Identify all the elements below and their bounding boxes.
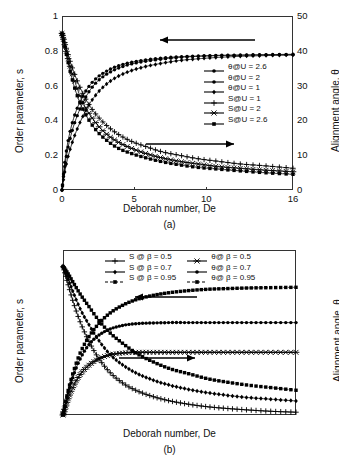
legend-item[interactable]: S@U = 2 [203, 104, 267, 115]
legend-marker-icon [203, 115, 225, 125]
legend-item[interactable]: S @ β = 0.5 [104, 252, 176, 263]
legend-column-s: S @ β = 0.5S @ β = 0.7S @ β = 0.95 [104, 252, 176, 284]
y-right-tick-label: 10 [297, 150, 308, 160]
figure-container: 05101600.20.40.60.8101020304050 Deborah … [0, 0, 339, 467]
y-left-tick-label: 0.8 [32, 46, 58, 56]
legend-item[interactable]: θ@ β = 0.5 [186, 252, 255, 263]
legend-item[interactable]: S @ β = 0.95 [104, 273, 176, 284]
caption-a: (a) [0, 219, 339, 230]
panel-b: 01234567891000.20.40.60.8101020304050 De… [0, 238, 339, 467]
legend-marker-icon [104, 273, 126, 283]
legend-column: θ@U = 2.6θ@U = 2θ@U = 1S@U = 1S@U = 2S@U… [203, 62, 267, 125]
legend-label: S @ β = 0.5 [129, 253, 172, 261]
legend-a: θ@U = 2.6θ@U = 2θ@U = 1S@U = 1S@U = 2S@U… [203, 62, 267, 125]
axis-title-y-right-b: Alignment angle, θ [332, 299, 339, 382]
axis-title-x-a: Deborah number, De [0, 203, 339, 214]
legend-marker-icon [104, 263, 126, 273]
legend-label: S@U = 2.6 [228, 116, 267, 124]
legend-item[interactable]: θ@U = 1 [203, 83, 267, 94]
axis-title-y-left-a: Order parameter, s [14, 69, 25, 153]
y-right-tick-label: 30 [297, 81, 308, 91]
y-right-tick-label: 50 [297, 11, 308, 21]
legend-label: θ@ β = 0.95 [211, 274, 255, 282]
legend-label: S @ β = 0.7 [129, 264, 172, 272]
legend-column-theta: θ@ β = 0.5θ@ β = 0.7θ@ β = 0.95 [186, 252, 255, 284]
y-left-tick-label: 1 [32, 11, 58, 21]
legend-columns: S @ β = 0.5S @ β = 0.7S @ β = 0.95θ@ β =… [104, 252, 255, 284]
axis-title-y-right-a: Alignment angle, θ [330, 69, 339, 152]
legend-b: S @ β = 0.5S @ β = 0.7S @ β = 0.95θ@ β =… [104, 252, 255, 284]
legend-label: S@U = 2 [228, 105, 261, 113]
legend-marker-icon [203, 94, 225, 104]
y-right-tick-label: 20 [297, 116, 308, 126]
legend-item[interactable]: S @ β = 0.7 [104, 263, 176, 274]
legend-marker-icon [104, 252, 126, 262]
y-left-tick-label: 0 [32, 185, 58, 195]
axis-title-x-b: Deborah number, De [0, 428, 339, 439]
y-left-tick-label: 0.6 [32, 81, 58, 91]
caption-b: (b) [0, 444, 339, 455]
y-left-tick-label: 0.2 [32, 150, 58, 160]
legend-marker-icon [203, 104, 225, 114]
legend-marker-icon [203, 73, 225, 83]
panel-a: 05101600.20.40.60.8101020304050 Deborah … [0, 0, 339, 238]
legend-marker-icon [203, 83, 225, 93]
legend-item[interactable]: S@U = 2.6 [203, 115, 267, 126]
x-tick-mark [134, 187, 135, 190]
legend-marker-icon [186, 273, 208, 283]
legend-item[interactable]: θ@U = 2.6 [203, 62, 267, 73]
axis-title-y-left-b: Order parameter, s [14, 299, 25, 383]
legend-item[interactable]: θ@ β = 0.7 [186, 263, 255, 274]
legend-label: θ@U = 2.6 [228, 63, 267, 71]
legend-item[interactable]: θ@ β = 0.95 [186, 273, 255, 284]
legend-label: θ@U = 1 [228, 84, 260, 92]
legend-label: S@U = 1 [228, 95, 261, 103]
legend-label: θ@U = 2 [228, 74, 260, 82]
x-tick-mark [206, 187, 207, 190]
legend-item[interactable]: S@U = 1 [203, 94, 267, 105]
y-right-tick-label: 40 [297, 46, 308, 56]
legend-item[interactable]: θ@U = 2 [203, 73, 267, 84]
legend-label: θ@ β = 0.5 [211, 253, 251, 261]
legend-marker-icon [203, 62, 225, 72]
legend-label: θ@ β = 0.7 [211, 264, 251, 272]
legend-marker-icon [186, 263, 208, 273]
y-right-tick-label: 0 [297, 185, 302, 195]
legend-label: S @ β = 0.95 [129, 274, 176, 282]
y-left-tick-label: 0.4 [32, 116, 58, 126]
legend-marker-icon [186, 252, 208, 262]
